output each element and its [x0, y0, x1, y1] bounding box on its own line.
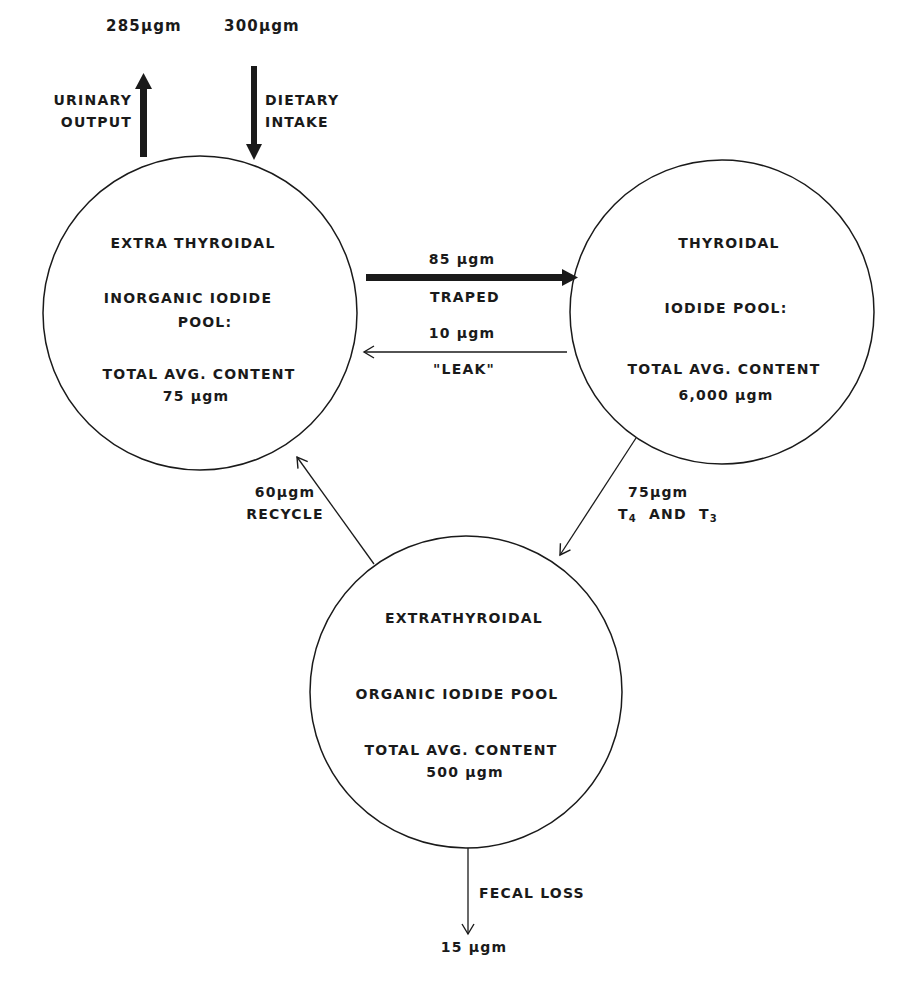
thyroidal-content-value: 6,000 μgm	[679, 387, 774, 404]
extra-inorganic-content-value: 75 μgm	[163, 388, 229, 405]
dietary-intake-label-1: DIETARY	[265, 92, 339, 109]
extra-inorganic-pool-line2: POOL:	[178, 314, 233, 331]
extra-organic-content-value: 500 μgm	[426, 764, 503, 781]
extra-inorganic-pool-line1: INORGANIC IODIDE	[104, 290, 272, 307]
t4-label: T	[618, 506, 629, 522]
urinary-output-label-2: OUTPUT	[61, 114, 132, 131]
extra-organic-content-label: TOTAL AVG. CONTENT	[365, 742, 558, 759]
urinary-output-label-1: URINARY	[54, 92, 132, 109]
dietary-intake-label-2: INTAKE	[265, 114, 329, 131]
recycle-label: RECYCLE	[246, 506, 323, 523]
fecal-loss-label: FECAL LOSS	[479, 885, 585, 902]
iodine-metabolism-diagram	[0, 0, 902, 996]
recycle-amount: 60μgm	[255, 484, 315, 501]
hormone-arrow-icon	[560, 438, 636, 555]
leak-label: "LEAK"	[433, 361, 495, 378]
extra-organic-pool-title: EXTRATHYROIDAL	[385, 610, 543, 627]
trapped-amount: 85 μgm	[429, 251, 495, 268]
dietary-intake-amount: 300μgm	[224, 18, 300, 35]
urinary-output-amount: 285μgm	[106, 18, 182, 35]
hormone-label: T4 AND T3	[618, 506, 718, 527]
leak-amount: 10 μgm	[429, 325, 495, 342]
extra-inorganic-pool-title: EXTRA THYROIDAL	[110, 235, 275, 252]
t3-label: T	[699, 506, 710, 522]
thyroidal-pool-title: THYROIDAL	[678, 235, 779, 252]
trapped-label: TRAPED	[430, 289, 500, 306]
thyroidal-pool-line1: IODIDE POOL:	[665, 300, 788, 317]
dietary-intake-arrow-icon	[246, 66, 262, 160]
hormone-amount: 75μgm	[628, 484, 688, 501]
urinary-output-arrow-icon	[135, 73, 152, 157]
t4-subscript: 4	[629, 513, 637, 524]
extra-inorganic-pool-circle	[43, 156, 357, 470]
extra-organic-pool-line1: ORGANIC IODIDE POOL	[356, 686, 559, 703]
trapped-arrow-icon	[366, 269, 578, 286]
hormone-and: AND	[637, 506, 699, 522]
extra-inorganic-content-label: TOTAL AVG. CONTENT	[103, 366, 296, 383]
t3-subscript: 3	[710, 513, 718, 524]
thyroidal-content-label: TOTAL AVG. CONTENT	[628, 361, 821, 378]
fecal-loss-amount: 15 μgm	[441, 939, 507, 956]
